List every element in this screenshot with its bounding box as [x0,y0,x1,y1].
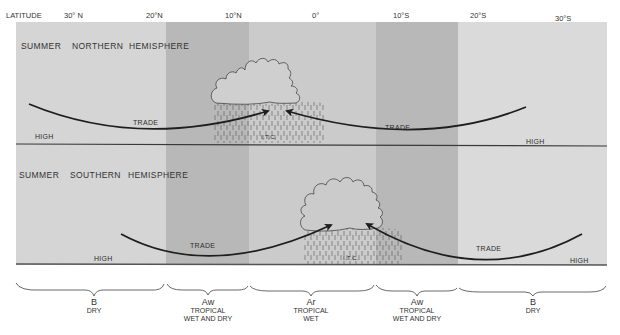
climate-zone-b-south: B DRY [526,298,541,315]
label-trade-north-right: TRADE [385,124,410,131]
climate-zone-aw-north: Aw TROPICAL WET AND DRY [184,298,232,323]
panel-title-south-hemisphere-name: SOUTHERN [70,170,121,180]
label-itc-south: I.T.C. [343,255,359,261]
zone-name: TROPICAL [190,307,225,314]
brace-b-north [16,283,164,296]
label-high-north-left: HIGH [35,133,54,140]
latitude-tick-20s: 20°S [470,11,486,20]
zone-name: TROPICAL [293,307,328,314]
latitude-tick-30n: 30° N [64,11,83,20]
brace-b-south [459,286,606,296]
zone-name: DRY [526,307,541,314]
label-itc-north: I.T.C. [261,134,277,140]
climate-zone-braces [16,283,606,296]
label-high-south-right: HIGH [570,257,589,264]
zone-code: Ar [293,298,328,307]
brace-aw-north [167,284,248,295]
panel-title-south-summer: SUMMER [19,170,59,180]
panel-title-north-summer: SUMMER [21,41,61,51]
zone-name: TROPICAL [399,307,434,314]
climate-zone-b-north: B DRY [87,298,102,315]
latitude-tick-20n: 20°N [146,11,163,20]
zone-name-line2: WET [303,315,319,322]
brace-aw-south [376,285,457,296]
latitude-tick-10n: 10°N [225,11,242,20]
label-high-north-right: HIGH [526,138,545,145]
zone-name-line2: WET AND DRY [184,315,232,322]
zone-code: B [87,298,102,307]
zone-code: Aw [184,298,232,307]
latitude-tick-0: 0° [312,11,319,20]
band-wet-dry-north [166,22,249,265]
latitude-tick-30s: 30°S [555,14,571,23]
label-trade-south-right: TRADE [476,245,501,252]
panel-title-north-hemisphere: HEMISPHERE [129,41,189,51]
label-trade-south-left: TRADE [190,242,215,249]
zone-name-line2: WET AND DRY [393,315,441,322]
zone-code: Aw [393,298,441,307]
latitude-tick-10s: 10°S [393,11,409,20]
climate-zone-aw-south: Aw TROPICAL WET AND DRY [393,298,441,323]
zone-code: B [526,298,541,307]
label-trade-north-left: TRADE [133,119,158,126]
brace-ar [250,285,374,296]
panel-title-south-hemisphere: HEMISPHERE [128,170,188,180]
climate-zone-ar: Ar TROPICAL WET [293,298,328,323]
label-high-south-left: HIGH [94,255,113,262]
zone-name: DRY [87,307,102,314]
divider-line-south [16,264,607,265]
panel-title-north-hemisphere-name: NORTHERN [72,41,123,51]
latitude-axis-label: LATITUDE [6,11,42,20]
